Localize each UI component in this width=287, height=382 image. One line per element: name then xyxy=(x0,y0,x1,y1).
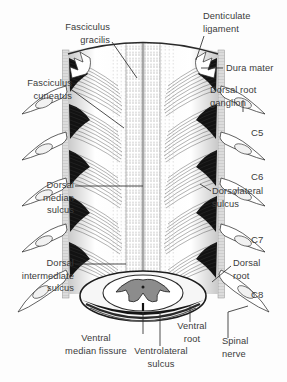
label-dorsal-intermediate-sulcus-line1: Dorsal xyxy=(47,258,74,268)
segment-label-c8: C8 xyxy=(251,289,264,300)
segment-label-c6: C6 xyxy=(251,171,264,182)
label-ventral-median-fissure-line2: median fissure xyxy=(65,346,127,356)
label-dorsal-root-line2: root xyxy=(233,271,249,281)
label-dorsal-root-ganglion-line2: ganglion xyxy=(210,98,246,108)
label-fasciculus-gracilis-line2: gracilis xyxy=(80,35,110,45)
segment-label-c7: C7 xyxy=(251,234,264,245)
label-spinal-nerve: Spinal nerve xyxy=(222,335,248,360)
label-fasciculus-gracilis-line1: Fasciculus xyxy=(65,22,110,32)
label-ventrolateral-sulcus-line2: sulcus xyxy=(148,359,175,369)
label-dura-mater: Dura mater xyxy=(226,62,273,75)
label-denticulate-ligament: Denticulate ligament xyxy=(203,10,251,35)
label-fasciculus-gracilis: Fasciculus gracilis xyxy=(18,21,110,46)
label-ventral-root-line2: root xyxy=(184,334,200,344)
label-dorsal-median-sulcus: Dorsal median sulcus xyxy=(0,179,74,217)
label-denticulate-ligament-line2: ligament xyxy=(203,24,239,34)
label-ventrolateral-sulcus: Ventrolateral sulcus xyxy=(123,345,199,370)
label-ventral-median-fissure-line1: Ventral xyxy=(81,333,111,343)
label-dorsal-median-sulcus-line2: median xyxy=(43,193,74,203)
label-dorsal-root-ganglion: Dorsal root ganglion xyxy=(210,84,257,109)
label-dorsal-intermediate-sulcus: Dorsal intermediate sulcus xyxy=(0,257,74,295)
label-fasciculus-cuneatus: Fasciculus cuneatus xyxy=(0,77,72,102)
label-ventrolateral-sulcus-line1: Ventrolateral xyxy=(134,346,187,356)
segment-label-c5: C5 xyxy=(251,127,264,138)
label-fasciculus-cuneatus-line1: Fasciculus xyxy=(27,78,72,88)
label-dorsolateral-sulcus-line1: Dorsolateral xyxy=(212,186,263,196)
label-dorsal-root-line1: Dorsal xyxy=(233,258,260,268)
label-dorsal-median-sulcus-line1: Dorsal xyxy=(47,180,74,190)
label-dorsal-root-ganglion-line1: Dorsal root xyxy=(210,85,257,95)
label-dorsolateral-sulcus-line2: sulcus xyxy=(212,199,239,209)
label-dorsal-intermediate-sulcus-line3: sulcus xyxy=(47,283,74,293)
label-ventral-root-line1: Ventral xyxy=(177,321,207,331)
label-ventral-root: Ventral root xyxy=(170,320,214,345)
label-spinal-nerve-line2: nerve xyxy=(222,349,246,359)
spinal-cord-body xyxy=(68,34,218,296)
label-spinal-nerve-line1: Spinal xyxy=(222,336,248,346)
label-dorsal-root: Dorsal root xyxy=(233,257,260,282)
label-denticulate-ligament-line1: Denticulate xyxy=(203,11,251,21)
label-dorsal-median-sulcus-line3: sulcus xyxy=(47,205,74,215)
label-fasciculus-cuneatus-line2: cuneatus xyxy=(34,91,72,101)
label-dorsolateral-sulcus: Dorsolateral sulcus xyxy=(212,185,263,210)
label-dorsal-intermediate-sulcus-line2: intermediate xyxy=(22,271,74,281)
